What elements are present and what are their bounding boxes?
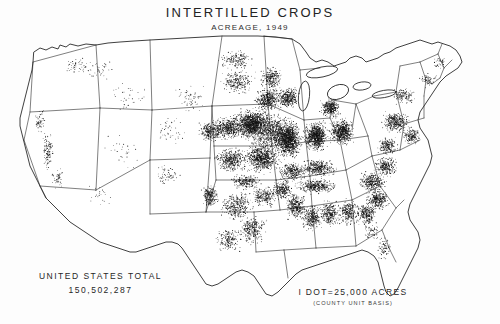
national-total-value: 150,502,287 — [18, 284, 183, 296]
legend-unit-basis: (COUNTY UNIT BASIS) — [258, 299, 448, 308]
map-title-block: INTERTILLED CROPS ACREAGE, 1949 — [0, 6, 500, 33]
page-subtitle: ACREAGE, 1949 — [0, 22, 500, 33]
map-legend: I DOT=25,000 ACRES (COUNTY UNIT BASIS) — [258, 286, 448, 308]
national-total-block: UNITED STATES TOTAL 150,502,287 — [18, 270, 183, 296]
national-total-label: UNITED STATES TOTAL — [18, 270, 183, 282]
map-figure: INTERTILLED CROPS ACREAGE, 1949 UNITED S… — [0, 0, 500, 324]
us-national-outline — [20, 36, 462, 296]
page-title: INTERTILLED CROPS — [0, 6, 500, 20]
legend-dot-value: I DOT=25,000 ACRES — [258, 286, 448, 298]
